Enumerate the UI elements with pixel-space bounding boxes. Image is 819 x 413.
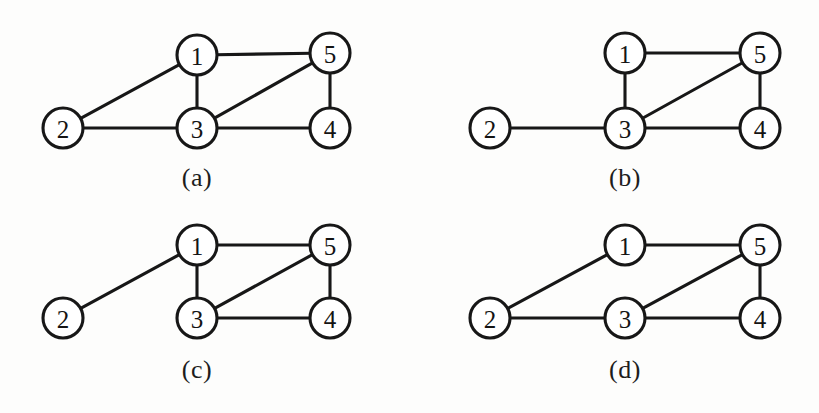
panel-b-caption: (b) xyxy=(565,165,685,191)
node-5: 5 xyxy=(740,225,780,265)
node-label-5: 5 xyxy=(324,41,337,68)
node-label-1: 1 xyxy=(191,233,204,260)
node-label-4: 4 xyxy=(324,116,337,143)
edge-1-2 xyxy=(79,254,181,309)
node-label-4: 4 xyxy=(754,306,767,333)
figure-root: 12345123451234512345 (a)(b)(c)(d) xyxy=(0,0,819,413)
node-5: 5 xyxy=(310,33,350,73)
node-label-3: 3 xyxy=(191,306,204,333)
panel-b: 12345 xyxy=(470,33,780,148)
node-label-2: 2 xyxy=(57,306,70,333)
edge-3-5 xyxy=(641,62,744,119)
node-4: 4 xyxy=(310,298,350,338)
node-label-3: 3 xyxy=(191,116,204,143)
edge-3-5 xyxy=(213,254,314,309)
node-2: 2 xyxy=(43,298,83,338)
node-label-2: 2 xyxy=(484,116,497,143)
node-3: 3 xyxy=(605,298,645,338)
node-label-3: 3 xyxy=(619,306,632,333)
node-label-1: 1 xyxy=(619,41,632,68)
node-1: 1 xyxy=(177,35,217,75)
node-label-3: 3 xyxy=(619,116,632,143)
node-5: 5 xyxy=(740,33,780,73)
node-label-4: 4 xyxy=(754,116,767,143)
node-2: 2 xyxy=(43,108,83,148)
node-4: 4 xyxy=(740,298,780,338)
graph-canvas: 12345123451234512345 xyxy=(0,0,819,413)
edge-1-2 xyxy=(79,64,181,119)
node-label-5: 5 xyxy=(324,233,337,260)
panel-d-caption: (d) xyxy=(565,357,685,383)
node-label-2: 2 xyxy=(484,306,497,333)
panel-a-caption: (a) xyxy=(137,165,257,191)
node-label-1: 1 xyxy=(191,43,204,70)
panel-c-caption: (c) xyxy=(137,357,257,383)
panel-d: 12345 xyxy=(470,225,780,338)
node-3: 3 xyxy=(177,108,217,148)
edge-3-5 xyxy=(641,254,743,309)
node-label-5: 5 xyxy=(754,233,767,260)
node-label-1: 1 xyxy=(619,233,632,260)
node-4: 4 xyxy=(310,108,350,148)
edge-3-5 xyxy=(213,62,314,119)
node-1: 1 xyxy=(177,225,217,265)
node-2: 2 xyxy=(470,108,510,148)
node-label-2: 2 xyxy=(57,116,70,143)
node-4: 4 xyxy=(740,108,780,148)
node-3: 3 xyxy=(605,108,645,148)
edge-1-5 xyxy=(216,53,312,54)
panel-a: 12345 xyxy=(43,33,350,148)
edge-1-2 xyxy=(506,254,608,309)
node-label-4: 4 xyxy=(324,306,337,333)
node-3: 3 xyxy=(177,298,217,338)
node-1: 1 xyxy=(605,33,645,73)
node-2: 2 xyxy=(470,298,510,338)
node-5: 5 xyxy=(310,225,350,265)
node-1: 1 xyxy=(605,225,645,265)
panel-c: 12345 xyxy=(43,225,350,338)
node-label-5: 5 xyxy=(754,41,767,68)
